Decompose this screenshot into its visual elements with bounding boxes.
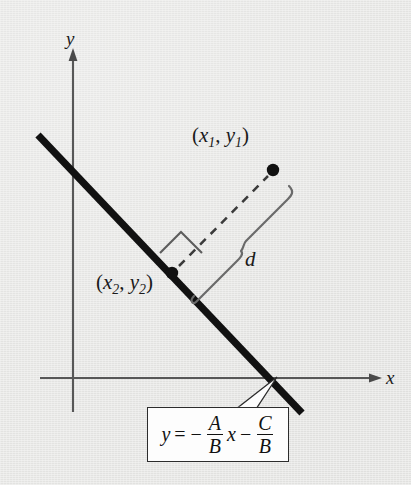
equation-first-minus: − xyxy=(191,423,202,446)
point2-y-subscript: 2 xyxy=(139,282,146,297)
point-x2-y2-dot xyxy=(166,267,178,279)
fraction-c-numerator: C xyxy=(256,413,273,434)
point1-x-var: x xyxy=(199,123,208,147)
x-axis-label: x xyxy=(386,368,394,387)
distance-brace xyxy=(192,186,292,303)
axes-group xyxy=(40,48,382,412)
point-x1-y1-dot xyxy=(267,164,279,176)
point2-y-var: y xyxy=(130,270,139,294)
y-axis-arrowhead xyxy=(69,48,78,61)
fraction-a-over-b: A B xyxy=(207,413,223,457)
callout-pointer-tail xyxy=(236,377,277,409)
fraction-a-numerator: A xyxy=(207,413,223,434)
distance-label: d xyxy=(245,249,256,270)
point-x2-y2-label: (x2, y2) xyxy=(96,272,153,296)
x-axis-arrowhead xyxy=(369,374,382,383)
point2-close-paren: ) xyxy=(146,270,153,294)
y-axis-label: y xyxy=(66,29,74,48)
equation-lhs: y xyxy=(161,423,170,446)
equation-callout-box: y = − A B x − C B xyxy=(147,407,289,462)
fraction-b-denominator: B xyxy=(207,434,223,456)
right-angle-marker xyxy=(160,232,202,253)
figure-canvas: y x (x1, y1) (x2, y2) d y = − A B x − C … xyxy=(0,0,411,485)
point1-y-subscript: 1 xyxy=(235,135,242,150)
point1-comma: , xyxy=(215,123,226,147)
point2-comma: , xyxy=(119,270,130,294)
point2-open-paren: ( xyxy=(96,270,103,294)
fraction-c-over-b: C B xyxy=(256,413,273,457)
point-x1-y1-label: (x1, y1) xyxy=(192,125,249,149)
equation-second-minus: − xyxy=(240,423,251,446)
point2-x-var: x xyxy=(103,270,112,294)
point1-y-var: y xyxy=(226,123,235,147)
fraction-b2-denominator: B xyxy=(257,434,273,456)
point1-close-paren: ) xyxy=(242,123,249,147)
point1-open-paren: ( xyxy=(192,123,199,147)
line-equation: y = − A B x − C B xyxy=(148,408,288,461)
equation-x-variable: x xyxy=(227,423,236,446)
equation-equals: = xyxy=(174,423,185,446)
